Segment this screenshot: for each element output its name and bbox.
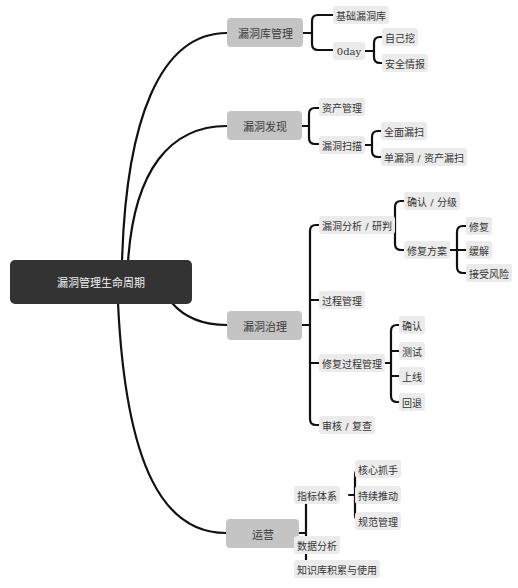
node-label: 修复过程管理	[322, 356, 382, 371]
node-release[interactable]: 上线	[399, 367, 425, 385]
node-test[interactable]: 测试	[399, 342, 425, 360]
node-fix-plan[interactable]: 修复方案	[404, 241, 450, 259]
branch-vuln-library[interactable]: 漏洞库管理	[227, 18, 303, 47]
node-label: 上线	[402, 369, 422, 384]
node-metrics-system[interactable]: 指标体系	[294, 486, 340, 504]
node-label: 漏洞分析 / 研判	[322, 218, 392, 233]
node-label: 基础漏洞库	[336, 8, 386, 23]
node-confirm[interactable]: 确认	[399, 316, 425, 334]
node-label: 漏洞扫描	[322, 138, 362, 153]
node-rollback[interactable]: 回退	[399, 393, 425, 411]
node-label: 核心抓手	[358, 462, 398, 477]
root-label: 漏洞管理生命周期	[57, 274, 145, 290]
node-label: 修复方案	[407, 243, 447, 258]
node-full-scan[interactable]: 全面漏扫	[381, 122, 427, 140]
node-security-intel[interactable]: 安全情报	[382, 54, 428, 72]
node-label: 知识库积累与使用	[297, 562, 377, 577]
node-label: 0day	[337, 46, 361, 57]
node-vuln-scan[interactable]: 漏洞扫描	[319, 136, 365, 154]
node-label: 资产管理	[322, 100, 362, 115]
branch-label: 漏洞库管理	[238, 25, 293, 41]
node-label: 持续推动	[358, 488, 398, 503]
node-fix[interactable]: 修复	[466, 217, 492, 235]
node-continuous-push[interactable]: 持续推动	[355, 486, 401, 504]
node-process-management[interactable]: 过程管理	[319, 291, 365, 309]
node-self-discovered[interactable]: 自己挖	[382, 28, 418, 46]
node-fix-process-management[interactable]: 修复过程管理	[319, 354, 385, 372]
node-label: 指标体系	[297, 488, 337, 503]
node-standard-management[interactable]: 规范管理	[355, 512, 401, 530]
node-basic-vuln-db[interactable]: 基础漏洞库	[333, 6, 389, 24]
node-label: 自己挖	[385, 30, 415, 45]
node-label: 修复	[469, 219, 489, 234]
node-label: 确认	[402, 318, 422, 333]
branch-label: 运营	[252, 526, 274, 542]
node-label: 接受风险	[469, 266, 509, 281]
node-label: 缓解	[469, 243, 489, 258]
node-label: 测试	[402, 344, 422, 359]
node-label: 确认 / 分级	[407, 194, 457, 209]
node-core-lever[interactable]: 核心抓手	[355, 460, 401, 478]
node-knowledge-base[interactable]: 知识库积累与使用	[294, 560, 380, 578]
node-label: 过程管理	[322, 293, 362, 308]
node-single-asset-scan[interactable]: 单漏洞 / 资产漏扫	[381, 148, 467, 166]
branch-label: 漏洞发现	[243, 118, 287, 134]
node-data-analysis[interactable]: 数据分析	[294, 536, 340, 554]
node-confirm-grade[interactable]: 确认 / 分级	[404, 192, 460, 210]
branch-vuln-discovery[interactable]: 漏洞发现	[227, 111, 302, 140]
node-audit-review[interactable]: 审核 / 复查	[319, 416, 375, 434]
node-label: 单漏洞 / 资产漏扫	[384, 150, 464, 165]
node-accept-risk[interactable]: 接受风险	[466, 264, 512, 282]
node-0day[interactable]: 0day	[333, 42, 365, 60]
branch-label: 漏洞治理	[243, 318, 287, 334]
node-asset-management[interactable]: 资产管理	[319, 98, 365, 116]
node-label: 安全情报	[385, 56, 425, 71]
branch-operations[interactable]: 运营	[226, 519, 299, 548]
node-label: 全面漏扫	[384, 124, 424, 139]
node-label: 回退	[402, 395, 422, 410]
node-label: 规范管理	[358, 514, 398, 529]
node-label: 审核 / 复查	[322, 418, 372, 433]
node-mitigate[interactable]: 缓解	[466, 241, 492, 259]
root-node[interactable]: 漏洞管理生命周期	[10, 260, 192, 304]
branch-vuln-governance[interactable]: 漏洞治理	[227, 311, 302, 340]
node-vuln-analysis[interactable]: 漏洞分析 / 研判	[319, 216, 395, 234]
node-label: 数据分析	[297, 538, 337, 553]
